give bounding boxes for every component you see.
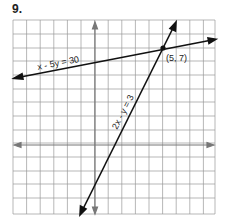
intersection-point (160, 45, 165, 50)
coordinate-graph: (5, 7) x - 5y = 30 2x - y = 3 (0, 0, 231, 224)
intersection-label: (5, 7) (166, 53, 187, 63)
